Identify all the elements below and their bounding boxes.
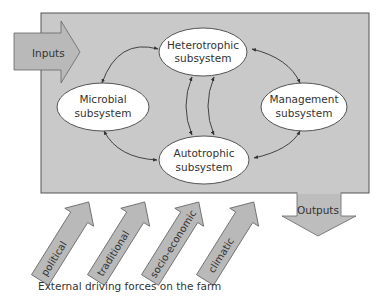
farm-system-diagram: Inputs Outputs Heterotrophic subsystem M… bbox=[0, 0, 381, 297]
microbial-subsystem: Microbial subsystem bbox=[57, 83, 149, 131]
svg-text:subsystem: subsystem bbox=[276, 107, 333, 119]
management-subsystem: Management subsystem bbox=[261, 83, 347, 131]
autotrophic-subsystem: Autotrophic subsystem bbox=[159, 136, 249, 184]
heterotrophic-subsystem: Heterotrophic subsystem bbox=[159, 28, 247, 76]
svg-text:subsystem: subsystem bbox=[175, 52, 232, 64]
svg-text:Management: Management bbox=[269, 93, 338, 105]
svg-text:Heterotrophic: Heterotrophic bbox=[167, 39, 239, 51]
svg-text:Autotrophic: Autotrophic bbox=[173, 147, 234, 159]
svg-text:subsystem: subsystem bbox=[75, 107, 132, 119]
inputs-label: Inputs bbox=[32, 47, 65, 59]
svg-text:socio-economic: socio-economic bbox=[148, 208, 199, 280]
diagram-caption: External driving forces on the farm bbox=[38, 280, 221, 292]
outputs-label: Outputs bbox=[297, 204, 339, 216]
driving-force-arrow-climatic: climatic bbox=[191, 193, 269, 289]
svg-text:Microbial: Microbial bbox=[79, 93, 126, 105]
svg-text:subsystem: subsystem bbox=[176, 161, 233, 173]
